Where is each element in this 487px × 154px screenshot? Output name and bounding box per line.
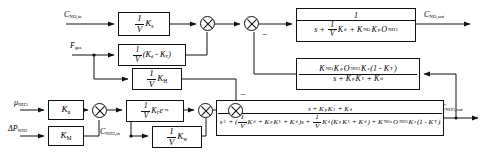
tf-feedback-numerator: KNOKpONH3Ks(1 - KT) — [319, 65, 396, 73]
signal-label-c-no-out: CNO,out — [424, 11, 444, 19]
block-transfer-function-feedback[interactable]: KNOKpONH3Ks(1 - KT) s + KpKI + Kd — [296, 58, 420, 90]
sum-junction-top-right[interactable] — [244, 16, 259, 31]
block-gain-kh[interactable]: 1 V KH — [132, 68, 182, 90]
block-transfer-function-nh3-plant[interactable]: s + KpKI + Kd s2 + ( 1V Kd + KpKI + Kd)s… — [216, 100, 444, 136]
sum-junction-top-left[interactable] — [200, 16, 215, 31]
signal-label-delta-p-nh3: ΔPNH3 — [8, 125, 27, 133]
block-gain-ks[interactable]: 1 V Ks — [118, 12, 170, 36]
signal-label-mu-nh3: μNH3 — [14, 99, 28, 107]
sum-junction-bottom-mid[interactable] — [198, 103, 213, 118]
block-gain-kw[interactable]: 1 V Kw — [152, 126, 202, 148]
sum-junction-bottom-right[interactable] — [228, 103, 243, 118]
tf-nh3-numerator: s + KpKI + Kd — [308, 106, 352, 113]
signal-label-c-no-in: CNO,in — [64, 11, 82, 19]
signal-label-c-nh3-in: CNH3,in — [100, 128, 120, 136]
block-gain-kf-delay[interactable]: 1 V KFe-τs — [126, 100, 184, 122]
block-diagram-canvas: CNO,in Fgas μNH3 ΔPNH3 CNH3,in CNO,out C… — [0, 0, 487, 154]
tf-no-plant-denominator: s + 1V Kd + KNO Kp ONH3 — [299, 21, 412, 38]
tf-feedback-denominator: s + KpKI + Kd — [301, 75, 416, 83]
block-gain-kd-minus-kt[interactable]: 1 V (Kd - KT) — [118, 44, 186, 66]
block-transfer-function-no-plant[interactable]: 1 s + 1V Kd + KNO Kp ONH3 — [296, 8, 416, 42]
sign-minus-bottom-right: − — [240, 90, 245, 99]
tf-nh3-denominator: s2 + ( 1V Kd + KpKI + Kd)s + 1V Kd(KpKI … — [220, 114, 439, 129]
block-gain-km[interactable]: KM — [48, 126, 84, 146]
block-gain-ku[interactable]: Ku — [48, 100, 84, 120]
signal-label-f-gas: Fgas — [70, 42, 82, 50]
sign-minus-top-right: − — [262, 30, 267, 39]
sum-junction-bottom-left[interactable] — [92, 103, 107, 118]
